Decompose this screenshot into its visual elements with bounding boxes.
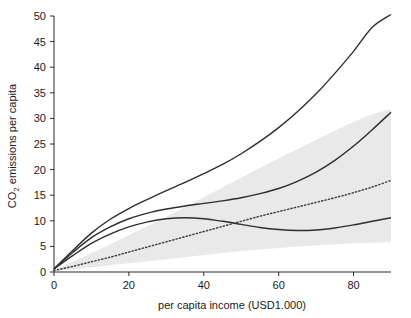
confidence-band: [54, 109, 391, 271]
y-tick-label: 0: [40, 266, 46, 278]
x-axis-title: per capita income (USD1.000): [158, 299, 306, 311]
y-axis-ticks: [50, 16, 54, 272]
y-tick-label: 15: [34, 189, 46, 201]
y-tick-label: 30: [34, 112, 46, 124]
y-axis-tick-labels: 05101520253035404550: [34, 10, 46, 278]
y-axis-title: CO2 emissions per capita: [6, 83, 21, 208]
confidence-band-group: [54, 109, 391, 271]
y-axis-title-rest: emissions per capita: [6, 83, 18, 187]
chart-figure: 05101520253035404550 020406080 per capit…: [0, 0, 411, 318]
y-axis-title-main: CO: [6, 191, 18, 208]
x-tick-label: 0: [51, 279, 57, 291]
y-tick-label: 35: [34, 87, 46, 99]
y-tick-label: 20: [34, 164, 46, 176]
y-tick-label: 45: [34, 36, 46, 48]
y-tick-label: 50: [34, 10, 46, 22]
y-tick-label: 5: [40, 240, 46, 252]
x-axis-tick-labels: 020406080: [51, 279, 360, 291]
x-tick-label: 60: [273, 279, 285, 291]
chart-canvas: 05101520253035404550 020406080 per capit…: [0, 0, 411, 318]
x-tick-label: 40: [198, 279, 210, 291]
x-axis-ticks: [54, 272, 354, 276]
y-tick-label: 40: [34, 61, 46, 73]
x-tick-label: 20: [123, 279, 135, 291]
y-tick-label: 10: [34, 215, 46, 227]
x-tick-label: 80: [347, 279, 359, 291]
y-tick-label: 25: [34, 138, 46, 150]
